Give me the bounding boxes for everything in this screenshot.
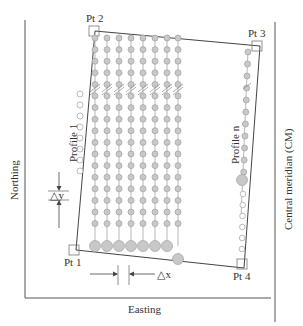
pt2-label: Pt 2 xyxy=(86,12,103,24)
easting-label: Easting xyxy=(128,303,161,315)
central-meridian-label: Central meridian (CM) xyxy=(282,128,295,230)
pt3-label: Pt 3 xyxy=(248,27,266,39)
delta-y-indicator: △y xyxy=(48,172,69,228)
delta-x-label: △x xyxy=(157,268,171,280)
profile-1-label: Profile 1 xyxy=(67,124,79,162)
northing-label: Northing xyxy=(8,160,20,200)
pt4-label: Pt 4 xyxy=(233,270,251,282)
delta-y-label: △y xyxy=(50,189,64,201)
pt1-label: Pt 1 xyxy=(64,256,81,268)
delta-x-indicator: △x xyxy=(90,265,171,285)
measurement-points xyxy=(77,35,251,265)
survey-grid-diagram: Pt 2 Pt 3 Pt 1 Pt 4 Northing Easting Cen… xyxy=(0,0,303,326)
profile-n-label: Profile n xyxy=(229,125,241,164)
